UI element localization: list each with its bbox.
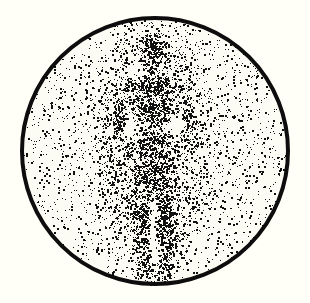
- stipple-figure-illustration: A circular black-bordered disc filled wi…: [0, 0, 310, 303]
- stipple-dot-canvas: [0, 0, 310, 303]
